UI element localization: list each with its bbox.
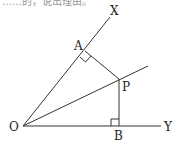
label-b: B	[114, 129, 123, 141]
label-y: Y	[163, 120, 173, 134]
ray-ox	[23, 17, 110, 126]
label-o: O	[9, 120, 19, 134]
geometry-diagram: X A P O B Y	[0, 0, 176, 141]
label-a: A	[73, 39, 83, 53]
right-angle-mark-b	[111, 119, 119, 126]
segment-ap	[85, 51, 119, 79]
right-angle-mark-a	[80, 56, 91, 62]
bisector-ray	[23, 66, 148, 126]
label-p: P	[122, 80, 130, 94]
label-x: X	[110, 4, 119, 18]
